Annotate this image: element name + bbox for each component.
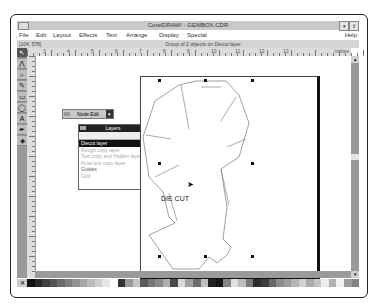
color-swatch[interactable] — [65, 279, 73, 287]
selection-handle[interactable] — [158, 162, 161, 165]
minimize-button[interactable]: ▾ — [339, 21, 349, 31]
color-swatch[interactable] — [178, 279, 186, 287]
menu-edit[interactable]: Edit — [36, 31, 46, 40]
color-swatch[interactable] — [306, 279, 314, 287]
layer-item[interactable]: Text copy and Hidden layer — [79, 153, 147, 160]
color-swatch[interactable] — [208, 279, 216, 287]
restore-button[interactable]: ⇕ — [349, 21, 359, 31]
color-swatch[interactable] — [314, 279, 322, 287]
menu-display[interactable]: Display — [159, 31, 179, 40]
color-swatch[interactable] — [284, 279, 292, 287]
color-swatch[interactable] — [110, 279, 118, 287]
menu-arrange[interactable]: Arrange — [126, 31, 147, 40]
shape-tool[interactable]: ⋀ — [17, 59, 27, 69]
outline-tool[interactable]: ✒ — [17, 125, 27, 135]
pencil-tool[interactable]: ✎ — [17, 81, 27, 91]
diecut-shape[interactable] — [141, 77, 317, 277]
rollup-close-icon[interactable] — [80, 126, 86, 130]
menu-effects[interactable]: Effects — [79, 31, 97, 40]
color-swatch[interactable] — [253, 279, 261, 287]
fold-line — [146, 135, 171, 139]
updown-arrow-icon: ⇕ — [352, 23, 356, 29]
color-swatch[interactable] — [57, 279, 65, 287]
color-swatch[interactable] — [87, 279, 95, 287]
color-swatch[interactable] — [246, 279, 254, 287]
fold-line — [181, 85, 189, 129]
color-swatch[interactable] — [344, 279, 352, 287]
color-swatch[interactable] — [42, 279, 50, 287]
layer-item[interactable]: Grid — [79, 173, 147, 180]
status-message: Group of 2 objects on Diecut layer — [143, 40, 263, 48]
ruler-tick — [29, 216, 35, 217]
color-swatch[interactable] — [80, 279, 88, 287]
color-swatch[interactable] — [95, 279, 103, 287]
vertical-scrollbar[interactable]: ▴ ▾ — [351, 56, 359, 278]
ruler-tick — [32, 161, 35, 162]
ruler-tick — [32, 251, 35, 252]
color-swatch[interactable] — [336, 279, 344, 287]
color-swatch[interactable] — [276, 279, 284, 287]
rollup-toggle-button[interactable]: ▾ — [106, 110, 113, 118]
color-swatch[interactable] — [299, 279, 307, 287]
color-swatch[interactable] — [148, 279, 156, 287]
ellipse-tool[interactable]: ◯ — [17, 103, 27, 113]
selection-handle[interactable] — [204, 79, 207, 82]
system-menu-button[interactable] — [18, 22, 29, 30]
color-swatch[interactable] — [201, 279, 209, 287]
menu-layout[interactable]: Layout — [53, 31, 71, 40]
color-swatch[interactable] — [291, 279, 299, 287]
color-swatch[interactable] — [185, 279, 193, 287]
scroll-up-button[interactable]: ▴ — [351, 56, 359, 63]
color-swatch[interactable] — [216, 279, 224, 287]
color-swatch[interactable] — [269, 279, 277, 287]
rollup-close-icon[interactable] — [64, 112, 70, 116]
color-swatch[interactable] — [223, 279, 231, 287]
color-swatch[interactable] — [72, 279, 80, 287]
selection-handle[interactable] — [251, 162, 254, 165]
color-swatch[interactable] — [329, 279, 337, 287]
fill-tool[interactable]: ◈ — [17, 136, 27, 146]
color-swatch[interactable] — [133, 279, 141, 287]
color-swatch[interactable] — [231, 279, 239, 287]
scroll-thumb[interactable] — [351, 154, 359, 160]
color-swatch[interactable] — [155, 279, 163, 287]
color-swatch[interactable] — [163, 279, 171, 287]
color-swatch[interactable] — [170, 279, 178, 287]
color-swatch[interactable] — [261, 279, 269, 287]
menu-file[interactable]: File — [19, 31, 29, 40]
no-fill-swatch[interactable]: ✕ — [17, 279, 27, 287]
horizontal-scrollbar[interactable] — [35, 271, 351, 278]
drawing-canvas[interactable]: Node Edit ▾ Layers ▴ ▶ Diecut layer Roug… — [36, 56, 351, 278]
color-swatch[interactable] — [193, 279, 201, 287]
menu-text[interactable]: Text — [106, 31, 117, 40]
menu-special[interactable]: Special — [187, 31, 207, 40]
ruler-tick — [32, 101, 35, 102]
zoom-tool[interactable]: ⌕ — [17, 70, 27, 80]
scroll-down-button[interactable]: ▾ — [351, 271, 359, 278]
selection-handle[interactable] — [251, 79, 254, 82]
menu-help[interactable]: Help — [345, 31, 357, 40]
color-swatch[interactable] — [27, 279, 35, 287]
color-swatch[interactable] — [118, 279, 126, 287]
color-swatch[interactable] — [50, 279, 58, 287]
rectangle-tool[interactable]: ▭ — [17, 92, 27, 102]
selection-handle[interactable] — [251, 255, 254, 258]
selection-handle[interactable] — [158, 79, 161, 82]
color-swatch[interactable] — [35, 279, 43, 287]
color-swatch[interactable] — [352, 279, 360, 287]
ruler-tick — [32, 226, 35, 227]
pick-tool[interactable]: ↖ — [17, 48, 27, 58]
color-swatch[interactable] — [140, 279, 148, 287]
die-cut-label[interactable]: DIE CUT — [161, 195, 189, 202]
selection-handle[interactable] — [158, 255, 161, 258]
color-swatch[interactable] — [238, 279, 246, 287]
color-swatch[interactable] — [125, 279, 133, 287]
ruler-tick — [29, 76, 35, 77]
text-tool[interactable]: A — [17, 114, 27, 124]
color-swatch[interactable] — [102, 279, 110, 287]
node-edit-rollup[interactable]: Node Edit ▾ — [62, 109, 114, 119]
color-swatch[interactable] — [321, 279, 329, 287]
ruler-tick — [32, 86, 35, 87]
rectangle-icon: ▭ — [19, 93, 26, 100]
selection-handle[interactable] — [204, 255, 207, 258]
